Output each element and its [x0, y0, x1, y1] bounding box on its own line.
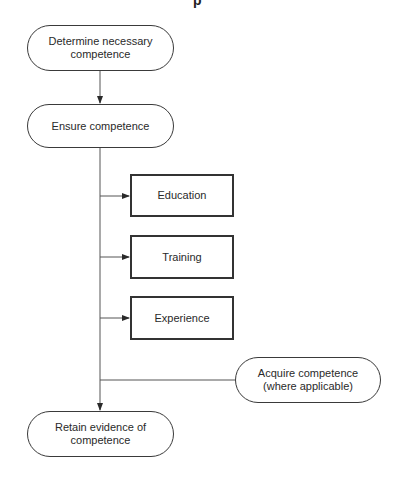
node-label: Training	[162, 251, 201, 264]
node-training: Training	[130, 235, 234, 279]
node-label: Ensure competence	[52, 120, 150, 133]
node-acquire-competence: Acquire competence (where applicable)	[235, 357, 381, 403]
node-experience: Experience	[130, 296, 234, 340]
node-label: Determine necessary competence	[49, 35, 153, 61]
node-education: Education	[130, 174, 234, 217]
node-ensure-competence: Ensure competence	[27, 104, 174, 148]
node-retain-evidence: Retain evidence of competence	[27, 411, 174, 457]
node-label: Retain evidence of competence	[55, 421, 146, 447]
node-label: Experience	[154, 312, 209, 325]
node-label: Education	[158, 189, 207, 202]
flowchart-canvas: p Determine necessary competence Ensure …	[0, 0, 403, 482]
node-label: Acquire competence (where applicable)	[258, 367, 358, 393]
node-determine-necessary-competence: Determine necessary competence	[27, 25, 174, 71]
